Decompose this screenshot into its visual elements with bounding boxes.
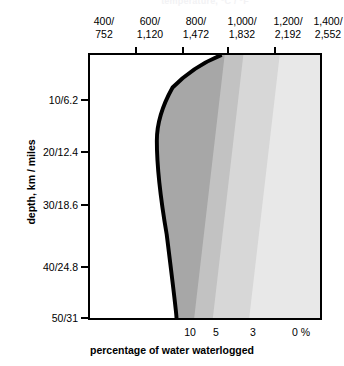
top-axis-labels: 400/ 752 600/ 1,120 800/ 1,472 1,000/ 1,… [0,15,344,43]
chart-figure: temperature, °C / °F 400/ 752 600/ 1,120… [0,0,344,366]
bands-svg [90,55,320,318]
top-tick-label: 1,200/ 2,192 [273,15,302,40]
bottom-tick-label: 3 [250,326,256,338]
left-tick-mark [81,317,88,319]
top-axis-title: temperature, °C / °F [88,0,322,6]
left-tick-mark [81,151,88,153]
y-tick-label: 50/31 [52,312,78,324]
shaded-bands [90,55,320,318]
x-axis-title: percentage of water waterlogged [0,344,344,356]
top-tick-label: 400/ 752 [94,15,114,40]
y-tick-label: 20/12.4 [43,146,78,158]
y-tick-label: 30/18.6 [43,199,78,211]
top-tick-label: 1,000/ 1,832 [227,15,256,40]
bottom-tick-label: 10 [184,326,196,338]
top-tick-label: 600/ 1,120 [137,15,163,40]
bottom-tick-label: 0 % [292,326,310,338]
top-tick-label: 1,400/ 2,552 [313,15,342,40]
left-tick-mark [81,99,88,101]
y-tick-label: 40/24.8 [43,261,78,273]
left-tick-mark [81,266,88,268]
left-tick-mark [81,204,88,206]
y-axis-title: depth, km / miles [25,107,37,257]
y-tick-label: 10/6.2 [49,94,78,106]
bottom-tick-label: 5 [213,326,219,338]
top-tick-label: 800/ 1,472 [183,15,209,40]
plot-area [88,53,322,320]
